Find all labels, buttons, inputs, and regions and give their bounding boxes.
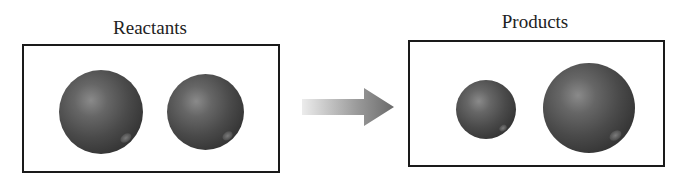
reaction-arrow-icon [302,88,394,126]
products-label: Products [435,11,635,33]
products-box [408,40,665,167]
product-sphere-small [456,80,516,139]
reactant-sphere-2 [167,74,244,150]
reactants-label: Reactants [50,17,250,39]
reactant-sphere-1 [59,70,143,154]
product-sphere-large [543,63,635,153]
reactants-box [22,44,280,173]
